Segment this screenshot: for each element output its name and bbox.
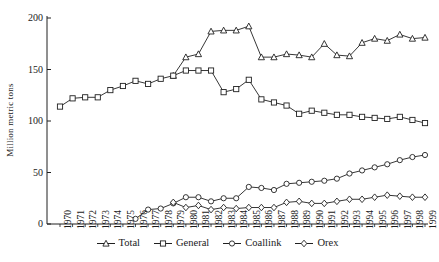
x-axis-tick-label: 1996: [391, 210, 401, 229]
x-axis-tick-label: 1978: [165, 210, 175, 229]
x-axis-tick-label: 1998: [416, 210, 426, 229]
x-axis-tick-label: 1980: [190, 210, 200, 229]
x-axis-tick-label: 1988: [291, 210, 301, 229]
series-general: [57, 68, 427, 126]
legend-item-total[interactable]: Total: [96, 238, 140, 249]
x-axis-tick-label: 1987: [278, 210, 288, 229]
x-axis-tick-label: 1990: [316, 210, 326, 229]
x-axis-tick-label: 1991: [328, 210, 338, 229]
legend-item-coallink[interactable]: Coallink: [222, 238, 281, 249]
x-axis-tick-label: 1971: [77, 210, 87, 229]
square-marker-icon: [153, 239, 173, 248]
x-axis-tick-label: 1985: [253, 210, 263, 229]
circle-marker-icon: [222, 239, 242, 248]
x-axis-tick-label: 1972: [89, 210, 99, 229]
legend-label: Orex: [317, 238, 338, 249]
x-axis-tick-label: 1977: [152, 210, 162, 229]
legend-label: Total: [119, 238, 140, 249]
x-axis-tick-label: 1994: [366, 210, 376, 229]
x-axis-tick-label: 1984: [240, 210, 250, 229]
chart-legend: TotalGeneralCoallinkOrex: [0, 238, 434, 249]
x-axis-tick-label: 1979: [177, 210, 187, 229]
legend-label: Coallink: [245, 238, 281, 249]
x-axis-tick-label: 1989: [303, 210, 313, 229]
x-axis-tick-label: 1973: [102, 210, 112, 229]
legend-item-orex[interactable]: Orex: [294, 238, 338, 249]
legend-item-general[interactable]: General: [153, 238, 209, 249]
x-axis-tick-label: 1982: [215, 210, 225, 229]
triangle-marker-icon: [96, 239, 116, 248]
legend-label: General: [176, 238, 209, 249]
x-axis-tick-label: 1974: [114, 210, 124, 229]
x-axis-tick-label: 1981: [202, 210, 212, 229]
x-axis-tick-label: 1976: [140, 210, 150, 229]
x-axis-tick-label: 1975: [127, 210, 137, 229]
x-axis-tick-label: 1970: [64, 210, 74, 229]
x-axis-tick-label: 1995: [379, 210, 389, 229]
x-axis-tick-label: 1986: [265, 210, 275, 229]
x-axis-tick-label: 1993: [353, 210, 363, 229]
x-axis-tick-label: 1983: [228, 210, 238, 229]
x-axis-tick-label: 1992: [341, 210, 351, 229]
x-axis-tick-label: 1999: [429, 210, 439, 229]
x-axis-tick-label: 1997: [404, 210, 414, 229]
diamond-marker-icon: [294, 239, 314, 248]
